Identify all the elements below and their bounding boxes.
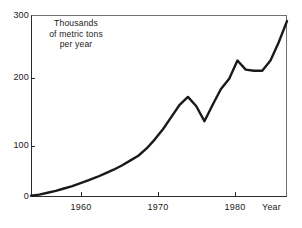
y-tick-label-0: 0 [3, 191, 29, 201]
y-tick-label-300: 300 [3, 10, 29, 20]
y-tick-label-100: 100 [3, 140, 29, 150]
x-tick-label-1980: 1980 [217, 202, 253, 212]
y-tick-label-200: 200 [3, 72, 29, 82]
series-line-production [31, 21, 287, 196]
x-tick-label-1960: 1960 [63, 202, 99, 212]
series-layer [31, 15, 287, 197]
y-axis: 300 200 100 0 [0, 0, 29, 228]
chart-figure: Thousands of metric tons per year 300 20… [0, 0, 302, 228]
x-tick-label-1970: 1970 [140, 202, 176, 212]
x-axis-title: Year [262, 202, 302, 212]
